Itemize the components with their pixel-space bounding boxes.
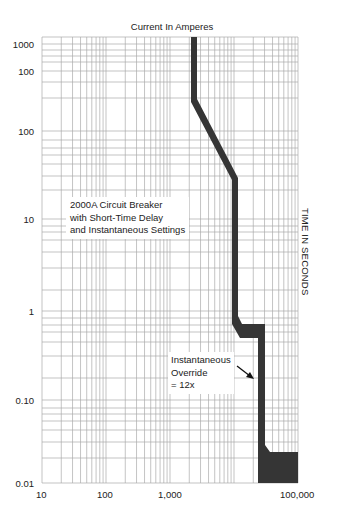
x-tick-label: 10 xyxy=(36,489,47,500)
x-tick-label: 100 xyxy=(97,489,113,500)
y-tick-label: 100 xyxy=(0,126,34,137)
annotation-line: with Short-Time Delay xyxy=(70,212,185,225)
annotation-line: Instantaneous xyxy=(171,354,231,367)
annotation-line: Override xyxy=(171,367,231,380)
y-tick-label: 1 xyxy=(0,306,34,317)
override-annotation: Instantaneous Override = 12x xyxy=(168,352,234,394)
annotation-line: = 12x xyxy=(171,379,231,392)
annotation-line: 2000A Circuit Breaker xyxy=(70,199,185,212)
x-tick-label: 1,000 xyxy=(158,489,182,500)
y-tick-label: 100 xyxy=(0,66,34,77)
x-tick-label: 100,000 xyxy=(280,489,314,500)
breaker-annotation: 2000A Circuit Breaker with Short-Time De… xyxy=(66,197,189,239)
y-axis-label: TIME IN SECONDS xyxy=(300,208,311,295)
trip-band xyxy=(191,37,298,483)
tcc-chart xyxy=(0,0,338,525)
y-tick-label: 0.10 xyxy=(0,395,34,406)
y-tick-label: 10 xyxy=(0,214,34,225)
y-tick-label: 0.01 xyxy=(0,478,34,489)
y-tick-label: 1000 xyxy=(0,39,34,50)
annotation-line: and Instantaneous Settings xyxy=(70,224,185,237)
